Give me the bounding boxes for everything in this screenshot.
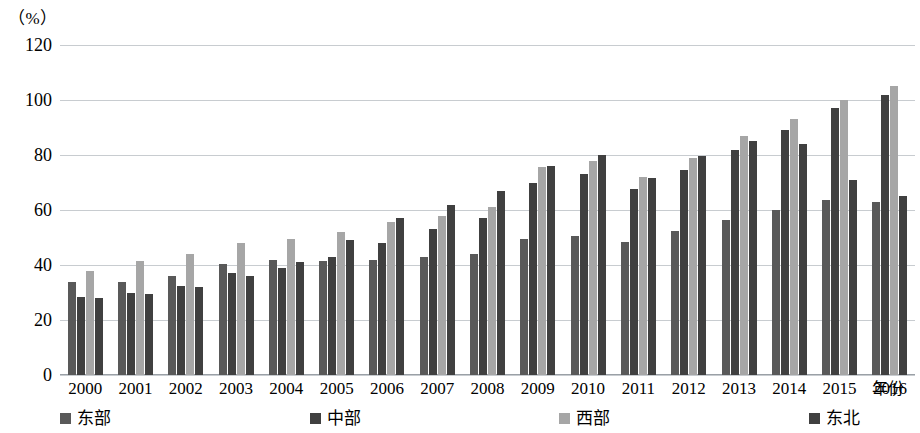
bar	[337, 232, 345, 375]
bar	[580, 174, 588, 375]
x-axis-tick-label: 2007	[412, 377, 462, 401]
legend-item-4[interactable]: 东北	[809, 410, 860, 427]
x-axis-tick-label: 2001	[110, 377, 160, 401]
y-axis: 020406080100120	[0, 45, 52, 375]
bar-group	[110, 45, 160, 375]
bar	[319, 261, 327, 375]
legend-item-1[interactable]: 东部	[60, 410, 111, 427]
bar-series-layer	[60, 45, 915, 375]
plot-area	[60, 45, 915, 375]
bar-group	[60, 45, 110, 375]
bar	[470, 254, 478, 375]
bar-group	[161, 45, 211, 375]
bar	[387, 222, 395, 375]
legend-label: 东部	[77, 410, 111, 427]
y-axis-unit-label: （%）	[8, 4, 58, 29]
bar	[740, 136, 748, 375]
bar	[447, 205, 455, 376]
gridline	[60, 375, 915, 376]
bar-group	[412, 45, 462, 375]
bar-group	[513, 45, 563, 375]
bar	[547, 166, 555, 375]
bar	[237, 243, 245, 375]
bar	[127, 293, 135, 376]
bar	[488, 207, 496, 375]
bar	[77, 297, 85, 375]
bar	[881, 95, 889, 376]
legend-swatch-icon	[809, 413, 820, 424]
bar	[589, 161, 597, 376]
bar	[899, 196, 907, 375]
y-axis-tick-label: 120	[4, 36, 52, 54]
bar	[840, 100, 848, 375]
bar	[177, 286, 185, 375]
x-axis-tick-label: 2000	[60, 377, 110, 401]
bar-group	[664, 45, 714, 375]
x-axis-tick-label: 2012	[664, 377, 714, 401]
bar-chart: （%） 020406080100120 20002001200220032004…	[0, 0, 920, 433]
x-axis-tick-label: 2015	[814, 377, 864, 401]
y-axis-tick-label: 40	[4, 256, 52, 274]
bar	[639, 177, 647, 375]
bar	[269, 260, 277, 376]
x-axis: 2000200120022003200420052006200720082009…	[60, 377, 915, 401]
bar	[529, 183, 537, 376]
y-axis-tick-label: 60	[4, 201, 52, 219]
bar	[831, 108, 839, 375]
bar-group	[714, 45, 764, 375]
bar	[195, 287, 203, 375]
x-axis-tick-label: 2006	[362, 377, 412, 401]
legend-swatch-icon	[310, 413, 321, 424]
bar	[396, 218, 404, 375]
legend-swatch-icon	[60, 413, 71, 424]
x-axis-tick-label: 2011	[613, 377, 663, 401]
y-axis-tick-label: 80	[4, 146, 52, 164]
legend: 东部中部西部东北	[60, 406, 860, 430]
bar	[145, 294, 153, 375]
bar	[497, 191, 505, 375]
bar	[571, 236, 579, 375]
x-axis-tick-label: 2009	[513, 377, 563, 401]
bar-group	[462, 45, 512, 375]
x-axis-tick-label: 2008	[462, 377, 512, 401]
bar-group	[311, 45, 361, 375]
bar	[671, 231, 679, 375]
bar-group	[261, 45, 311, 375]
bar	[799, 144, 807, 375]
bar	[420, 257, 428, 375]
x-axis-tick-label: 2013	[714, 377, 764, 401]
bar	[680, 170, 688, 375]
legend-item-2[interactable]: 中部	[310, 410, 361, 427]
bar	[822, 200, 830, 375]
bar	[849, 180, 857, 375]
x-axis-tick-label: 2002	[161, 377, 211, 401]
bar-group	[563, 45, 613, 375]
bar-group	[814, 45, 864, 375]
bar	[287, 239, 295, 375]
bar	[86, 271, 94, 376]
bar	[648, 178, 656, 375]
bar	[278, 268, 286, 375]
legend-item-3[interactable]: 西部	[559, 410, 610, 427]
bar	[219, 264, 227, 375]
bar	[296, 262, 304, 375]
bar	[538, 167, 546, 375]
legend-label: 中部	[327, 410, 361, 427]
bar	[438, 216, 446, 376]
x-axis-title: 年份	[872, 377, 904, 401]
bar	[749, 141, 757, 375]
bar	[186, 254, 194, 375]
bar-group	[764, 45, 814, 375]
bar	[378, 243, 386, 375]
bar	[228, 273, 236, 375]
bar	[872, 202, 880, 375]
bar	[479, 218, 487, 375]
bar	[328, 257, 336, 375]
bar	[630, 189, 638, 375]
bar-group	[362, 45, 412, 375]
bar	[722, 220, 730, 375]
bar	[246, 276, 254, 375]
legend-swatch-icon	[559, 413, 570, 424]
bar-group	[613, 45, 663, 375]
bar	[346, 240, 354, 375]
